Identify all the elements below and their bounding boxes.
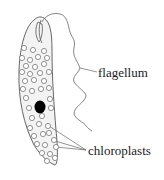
chloroplast [46, 85, 51, 90]
chloroplast [22, 78, 27, 83]
chloroplast [29, 88, 34, 93]
chloroplast [48, 105, 53, 110]
chloroplast [42, 142, 47, 147]
chloroplast [35, 54, 40, 59]
chloroplast [21, 45, 26, 50]
chloroplast [44, 55, 49, 60]
chloroplast [46, 69, 51, 74]
chloroplast [27, 125, 32, 130]
chloroplast [51, 137, 56, 142]
chloroplast [45, 123, 50, 128]
chloroplast [53, 144, 58, 149]
chloroplast [26, 105, 31, 110]
chloroplast [34, 141, 39, 146]
chloroplast [36, 121, 41, 126]
chloroplast [39, 150, 44, 155]
chloroplast [44, 158, 49, 163]
chloroplast [46, 130, 51, 135]
chloroplast [27, 57, 32, 62]
chloroplast [37, 70, 42, 75]
chloroplast [52, 155, 57, 160]
chloroplast [20, 86, 25, 91]
chloroplast [30, 47, 35, 52]
chloroplast [19, 69, 24, 74]
chloroplast [27, 71, 32, 76]
chloroplast [47, 151, 52, 156]
chloroplast [23, 63, 28, 68]
chloroplast [32, 64, 37, 69]
chloroplast [38, 86, 43, 91]
label-chloroplasts: chloroplasts [88, 144, 151, 157]
label-flagellum: flagellum [98, 66, 148, 79]
chloroplast [23, 95, 28, 100]
flagellum-pointer [80, 68, 97, 72]
chloroplast [31, 77, 36, 82]
chloroplast [19, 55, 24, 60]
euglena-diagram: flagellum chloroplasts [0, 0, 164, 180]
chloroplast [29, 115, 34, 120]
chloroplast [41, 78, 46, 83]
chloroplast [31, 133, 36, 138]
chloroplast [40, 131, 45, 136]
chloroplast [47, 96, 52, 101]
chloroplast [39, 113, 44, 118]
chloroplast [41, 48, 46, 53]
chloroplast [41, 61, 46, 66]
nucleus [35, 101, 46, 114]
